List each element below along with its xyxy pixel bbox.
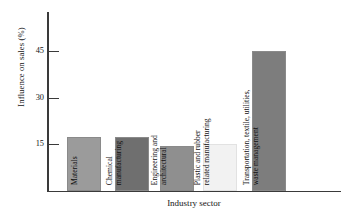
bar-group-plastic-and-rubber-related-manufacturing: Plastic and rubber related manufacturing <box>203 12 237 191</box>
bar-group-materials: Materials <box>67 12 101 191</box>
bar-chart: Influence on sales (%) 45 30 15 Material… <box>0 0 353 219</box>
bar-label-plastic-and-rubber-related-manufacturing: Plastic and rubber related manufacturing <box>193 118 211 185</box>
bar-label-chemical-manufacturing: Chemical manufacturing <box>105 141 123 185</box>
y-axis-title: Influence on sales (%) <box>16 2 26 132</box>
bar-label-transportation-textile-utilities-waste-management-line2: waste management <box>251 89 260 185</box>
y-tick-label-30: 30 <box>26 94 44 102</box>
bar-label-materials-line1: Materials <box>70 156 79 185</box>
bar-label-transportation-textile-utilities-waste-management-line1: Transportation, textile, utilities, <box>242 89 251 185</box>
bar-group-transportation-textile-utilities-waste-management: Transportation, textile, utilities, wast… <box>252 12 286 191</box>
bar-label-chemical-manufacturing-line2: manufacturing <box>114 141 123 185</box>
bar-label-plastic-and-rubber-related-manufacturing-line1: Plastic and rubber <box>193 118 202 185</box>
bar-label-engineering-and-architectural-line1: Engineering and <box>150 135 159 185</box>
plot-area: Materials Chemical manufacturing Enginee… <box>48 12 341 191</box>
bar-label-materials: Materials <box>70 156 79 185</box>
bar-label-transportation-textile-utilities-waste-management: Transportation, textile, utilities, wast… <box>242 89 260 185</box>
y-tick-label-15: 15 <box>26 140 44 148</box>
bar-label-engineering-and-architectural-line2: architectural <box>159 135 168 185</box>
bar-group-chemical-manufacturing: Chemical manufacturing <box>115 12 149 191</box>
bar-label-chemical-manufacturing-line1: Chemical <box>105 141 114 185</box>
y-tick-label-45: 45 <box>26 47 44 55</box>
bar-group-engineering-and-architectural: Engineering and architectural <box>160 12 194 191</box>
bar-label-plastic-and-rubber-related-manufacturing-line2: related manufacturing <box>202 118 211 185</box>
bar-label-engineering-and-architectural: Engineering and architectural <box>150 135 168 185</box>
x-axis-title: Industry sector <box>47 198 341 208</box>
